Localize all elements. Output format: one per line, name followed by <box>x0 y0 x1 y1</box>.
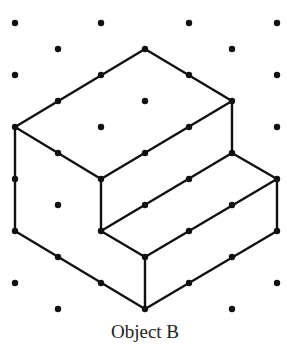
object-edge <box>232 153 277 179</box>
object-edge <box>101 231 145 257</box>
grid-dot <box>274 20 280 26</box>
grid-dot <box>229 46 235 52</box>
figure-caption: Object B <box>0 321 287 343</box>
object-edges <box>15 49 277 309</box>
object-edge <box>15 127 101 179</box>
object-edge <box>101 101 232 179</box>
object-edge <box>145 179 277 257</box>
grid-dot <box>12 72 18 78</box>
object-edge <box>101 153 232 231</box>
grid-dot <box>55 46 61 52</box>
grid-dot <box>142 98 148 104</box>
object-edge <box>15 231 145 309</box>
object-edge <box>15 49 145 127</box>
grid-dot <box>274 280 280 286</box>
grid-dot <box>12 20 18 26</box>
grid-dot <box>98 20 104 26</box>
grid-dot <box>12 280 18 286</box>
grid-dot <box>98 124 104 130</box>
grid-dot <box>55 306 61 312</box>
isometric-figure <box>0 0 287 352</box>
object-edge <box>145 231 277 309</box>
grid-dot <box>229 306 235 312</box>
grid-dot <box>186 20 192 26</box>
grid-dot <box>274 124 280 130</box>
object-edge <box>145 49 232 101</box>
grid-dot <box>55 202 61 208</box>
grid-dot <box>274 72 280 78</box>
